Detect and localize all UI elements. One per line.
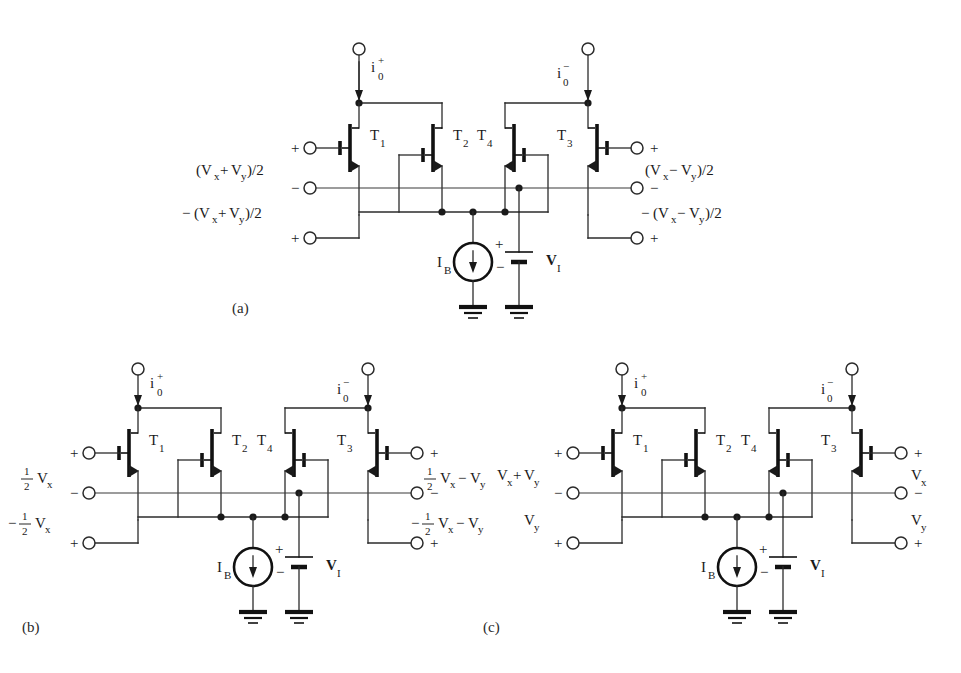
- expr-lb-num-b: 1: [22, 510, 28, 522]
- label-VI-sub-c: I: [821, 567, 825, 579]
- label-io-minus-sup-c: −: [827, 376, 833, 388]
- label-io-minus-sub-c: 0: [827, 392, 833, 404]
- junction-b1-a: [438, 208, 445, 215]
- label-T1-sub-c: 1: [643, 442, 649, 454]
- label-T1-sub-a: 1: [380, 137, 386, 149]
- terminal-left-top-c[interactable]: [567, 447, 579, 459]
- expr-lt-sub-b: x: [47, 478, 53, 490]
- expr-lt-num-b: 1: [24, 465, 30, 477]
- terminal-right-mid-b[interactable]: [411, 487, 423, 499]
- expr-rt-den-b: 2: [427, 480, 433, 492]
- label-T4-sub-a: 4: [487, 137, 493, 149]
- expr-left-top-close-a: )/2: [247, 162, 264, 179]
- circuit-figure-svg: i 0 + i 0 − T 1 T 2: [0, 0, 961, 673]
- terminal-right-mid-a[interactable]: [631, 182, 643, 194]
- expr-right-top-close-a: )/2: [697, 162, 714, 179]
- sign-left-mid-b: −: [70, 485, 78, 501]
- label-io-minus-base-b: i: [337, 381, 341, 397]
- expr-left-top-open-a: (V: [196, 162, 212, 179]
- terminal-left-mid-b[interactable]: [83, 487, 95, 499]
- label-T1-base-c: T: [633, 432, 642, 448]
- expr-rt-sub-b: x: [450, 478, 456, 490]
- label-T3-sub-c: 3: [831, 442, 837, 454]
- terminal-supply-left-a[interactable]: [353, 43, 365, 55]
- expr-rt-num-b: 1: [427, 465, 433, 477]
- label-T4-base-a: T: [477, 127, 486, 143]
- expr-left-bot-neg-a: −: [182, 205, 190, 221]
- terminal-left-bot-c[interactable]: [567, 537, 579, 549]
- terminal-right-top-a[interactable]: [631, 142, 643, 154]
- terminal-right-top-c[interactable]: [895, 447, 907, 459]
- sign-left-bot-a: +: [291, 230, 299, 246]
- label-IB-base-c: I: [701, 559, 706, 575]
- expr-left-top-op-a: +: [220, 162, 228, 178]
- terminal-left-bot-b[interactable]: [83, 537, 95, 549]
- sign-left-top-c: +: [554, 445, 562, 461]
- label-VI-sub-a: I: [557, 262, 561, 274]
- label-T3-sub-a: 3: [567, 137, 573, 149]
- terminal-right-bot-b[interactable]: [411, 537, 423, 549]
- label-T3-sub-b: 3: [347, 442, 353, 454]
- VI-minus-sign-b: −: [276, 564, 284, 580]
- label-T3-base-b: T: [337, 432, 346, 448]
- label-io-plus-sub-b: 0: [157, 386, 163, 398]
- sign-right-bot-c: +: [914, 535, 922, 551]
- terminal-supply-right-c[interactable]: [846, 363, 858, 375]
- label-IB-sub-c: B: [708, 569, 715, 581]
- label-T2-base-c: T: [716, 432, 725, 448]
- terminal-supply-left-c[interactable]: [616, 363, 628, 375]
- expr-left-bot-op-a: +: [218, 205, 226, 221]
- terminal-supply-right-a[interactable]: [582, 43, 594, 55]
- terminal-left-top-b[interactable]: [83, 447, 95, 459]
- label-T4-base-c: T: [741, 432, 750, 448]
- sign-right-bot-b: +: [430, 535, 438, 551]
- terminal-supply-left-b[interactable]: [132, 363, 144, 375]
- junction-b1-c: [701, 513, 708, 520]
- label-T1-base-a: T: [370, 127, 379, 143]
- label-T4-base-b: T: [257, 432, 266, 448]
- panel-caption-a: (a): [232, 300, 249, 317]
- expr-rt-sub-c: x: [921, 476, 927, 488]
- label-T2-sub-a: 2: [463, 137, 469, 149]
- label-T4-sub-c: 4: [751, 442, 757, 454]
- expr-lb-neg-b: −: [8, 515, 16, 531]
- VI-plus-sign-b: +: [275, 541, 283, 557]
- expr-lb-sub-b: x: [45, 523, 51, 535]
- terminal-right-bot-c[interactable]: [895, 537, 907, 549]
- label-io-plus-sub-c: 0: [641, 386, 647, 398]
- expr-rb-op-b: −: [456, 515, 464, 531]
- junction-b3-a: [501, 208, 508, 215]
- terminal-left-mid-c[interactable]: [567, 487, 579, 499]
- label-T4-sub-b: 4: [267, 442, 273, 454]
- label-io-plus-base-c: i: [634, 375, 638, 391]
- label-VI-base-b: V: [326, 557, 337, 573]
- label-T3-base-c: T: [821, 432, 830, 448]
- sign-left-bot-c: +: [554, 535, 562, 551]
- terminal-right-top-b[interactable]: [411, 447, 423, 459]
- terminal-right-bot-a[interactable]: [631, 232, 643, 244]
- label-io-minus-sup-a: −: [563, 60, 569, 72]
- expr-lb-sub-c: y: [534, 521, 540, 533]
- terminal-left-top-a[interactable]: [304, 142, 316, 154]
- expr-lt-den-b: 2: [24, 480, 30, 492]
- terminal-right-mid-c[interactable]: [895, 487, 907, 499]
- figure-canvas: i 0 + i 0 − T 1 T 2: [0, 0, 961, 673]
- sign-right-mid-a: −: [650, 180, 658, 196]
- expr-rb-den-b: 2: [425, 525, 431, 537]
- panel-caption-c: (c): [483, 619, 500, 636]
- label-io-minus-sup-b: −: [343, 376, 349, 388]
- terminal-supply-right-b[interactable]: [362, 363, 374, 375]
- junction-b1-b: [217, 513, 224, 520]
- terminal-left-mid-a[interactable]: [304, 182, 316, 194]
- expr-right-bot-op-a: −: [677, 205, 685, 221]
- terminal-left-bot-a[interactable]: [304, 232, 316, 244]
- label-io-plus-base-b: i: [150, 375, 154, 391]
- expr-right-bot-neg-a: −: [641, 205, 649, 221]
- label-T3-base-a: T: [557, 127, 566, 143]
- VI-minus-sign-c: −: [760, 564, 768, 580]
- label-VI-base-a: V: [546, 252, 557, 268]
- expr-rb-num-b: 1: [425, 510, 431, 522]
- label-IB-sub-a: B: [444, 264, 451, 276]
- VI-plus-sign-c: +: [759, 541, 767, 557]
- expr-rb-sub-c: y: [921, 521, 927, 533]
